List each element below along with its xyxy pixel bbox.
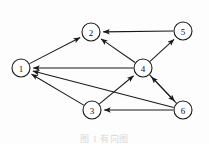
edge-4-to-5 [150, 39, 174, 61]
edge-4-to-6 [150, 75, 175, 101]
directed-graph: 123456 [0, 0, 209, 144]
node-4[interactable]: 4 [134, 59, 152, 77]
node-label-2: 2 [89, 28, 94, 38]
edge-5-to-2 [103, 31, 173, 32]
node-1[interactable]: 1 [12, 59, 30, 77]
edges-layer [30, 31, 177, 110]
node-6[interactable]: 6 [174, 101, 192, 119]
node-3[interactable]: 3 [83, 101, 101, 119]
node-label-1: 1 [19, 64, 24, 74]
node-label-3: 3 [90, 106, 95, 116]
node-label-5: 5 [181, 27, 186, 37]
node-label-6: 6 [181, 106, 186, 116]
figure-container: 123456 图 1 有向图 [0, 0, 209, 144]
nodes-layer: 123456 [12, 22, 192, 119]
edge-1-to-2 [30, 38, 81, 64]
node-label-4: 4 [141, 64, 146, 74]
node-2[interactable]: 2 [82, 23, 100, 41]
figure-caption: 图 1 有向图 [0, 134, 209, 144]
edge-4-to-2 [101, 39, 135, 63]
edge-6-to-1 [33, 71, 174, 108]
edge-3-to-1 [32, 74, 84, 105]
node-5[interactable]: 5 [174, 22, 192, 40]
